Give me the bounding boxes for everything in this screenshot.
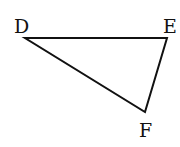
triangle-diagram: D E F — [0, 0, 180, 147]
triangle-def — [25, 38, 167, 112]
vertex-label-e: E — [163, 15, 177, 37]
vertex-label-d: D — [14, 15, 29, 37]
vertex-label-f: F — [139, 119, 152, 141]
